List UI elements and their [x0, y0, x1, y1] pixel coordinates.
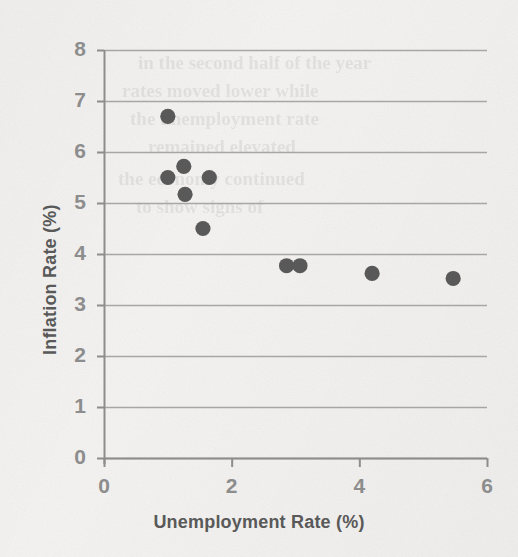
y-tick-label-8: 8: [56, 37, 86, 61]
data-point: [160, 109, 175, 124]
data-point: [279, 258, 294, 273]
data-points: [160, 109, 461, 286]
data-point: [202, 170, 217, 185]
data-point: [195, 221, 210, 236]
data-point: [177, 187, 192, 202]
gridlines: [104, 51, 487, 459]
data-point: [292, 258, 307, 273]
x-tick-label-0: 0: [89, 474, 119, 498]
data-point: [365, 266, 380, 281]
tick-marks: [97, 51, 488, 468]
y-tick-label-1: 1: [56, 394, 86, 418]
y-tick-label-6: 6: [56, 139, 86, 163]
data-point: [446, 271, 461, 286]
x-tick-label-6: 6: [472, 474, 502, 498]
data-point: [160, 170, 175, 185]
x-axis-title: Unemployment Rate (%): [0, 512, 518, 533]
y-tick-label-7: 7: [56, 88, 86, 112]
x-tick-label-2: 2: [217, 474, 247, 498]
y-axis-title: Inflation Rate (%): [40, 204, 61, 355]
scatter-plot: [0, 0, 518, 557]
data-point: [176, 159, 191, 174]
x-tick-label-4: 4: [344, 474, 374, 498]
axis-lines: [104, 50, 487, 464]
y-tick-label-0: 0: [56, 445, 86, 469]
